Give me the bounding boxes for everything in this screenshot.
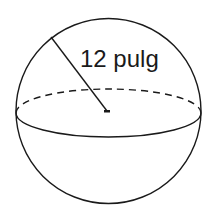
sphere-diagram: 12 pulg [0,0,205,213]
sphere-figure [0,0,205,213]
radius-label: 12 pulg [80,45,159,73]
equator-front-solid [16,113,201,137]
center-point [104,110,110,113]
equator-back-dashed [16,89,201,113]
